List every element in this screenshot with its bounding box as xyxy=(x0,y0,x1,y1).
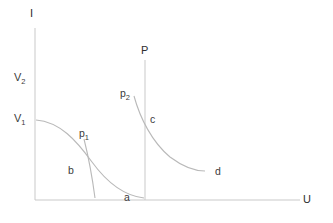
curve-p1-steep xyxy=(84,139,95,198)
annotation-a: a xyxy=(124,192,130,203)
annotation-p2: p2 xyxy=(120,88,130,102)
y-axis-label: I xyxy=(30,8,33,19)
annotation-d: d xyxy=(215,166,221,177)
curve-b xyxy=(36,120,144,198)
annotation-c: c xyxy=(150,114,155,125)
x-axis-label: U xyxy=(303,194,311,205)
tick-label-v2: V2 xyxy=(14,72,26,86)
annotation-b: b xyxy=(68,165,74,176)
physics-iv-diagram: I U V2 V1 p1 p2 b a c d P xyxy=(0,0,333,223)
annotation-p1: p1 xyxy=(79,128,89,142)
tick-label-v1: V1 xyxy=(14,113,26,127)
annotation-p-line-label: P xyxy=(141,45,148,56)
diagram-canvas xyxy=(0,0,333,223)
